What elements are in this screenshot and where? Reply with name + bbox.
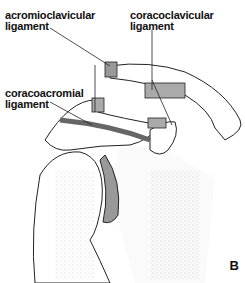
shoulder-diagram [0, 0, 245, 283]
label-coracoclavicular: coracoclavicular ligament [130, 10, 214, 32]
label-acromioclavicular: acromioclavicular ligament [5, 10, 95, 32]
panel-letter: B [230, 258, 239, 273]
coracoacromial-ligament-band [92, 98, 104, 112]
coracoclavicular-ligament [145, 83, 185, 98]
label-line-2: ligament [5, 99, 84, 110]
label-coracoacromial: coracoacromial ligament [5, 88, 84, 110]
label-line-2: ligament [130, 21, 214, 32]
label-line-2: ligament [5, 21, 95, 32]
